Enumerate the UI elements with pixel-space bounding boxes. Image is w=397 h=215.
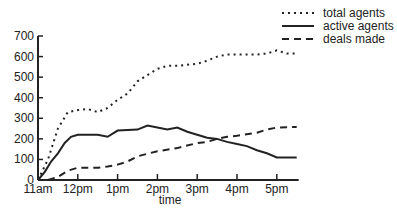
line-chart: 010020030040050060070011am12pm1pm2pm3pm4… [0, 0, 397, 215]
series-total-agents [38, 50, 297, 180]
y-tick-label: 100 [14, 152, 34, 166]
legend-label: deals made [323, 32, 385, 46]
y-tick-label: 700 [14, 29, 34, 43]
series-lines [38, 50, 297, 180]
y-tick-label: 600 [14, 50, 34, 64]
x-tick-label: 4pm [225, 182, 248, 196]
x-tick-label: 12pm [63, 182, 93, 196]
legend: total agentsactive agentsdeals made [282, 6, 394, 46]
y-tick-label: 300 [14, 111, 34, 125]
y-tick-label: 500 [14, 70, 34, 84]
y-tick-label: 400 [14, 91, 34, 105]
x-axis-label: time [159, 193, 182, 207]
x-tick-label: 1pm [106, 182, 129, 196]
x-tick-label: 3pm [186, 182, 209, 196]
axes: 010020030040050060070011am12pm1pm2pm3pm4… [14, 29, 299, 196]
legend-label: active agents [323, 19, 394, 33]
x-tick-label: 11am [23, 182, 52, 196]
x-tick-label: 5pm [265, 182, 288, 196]
legend-label: total agents [323, 6, 385, 20]
y-tick-label: 200 [14, 132, 34, 146]
series-active-agents [38, 126, 297, 181]
